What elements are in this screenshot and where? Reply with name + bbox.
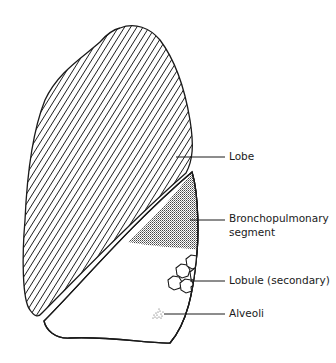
- lung-diagram: [0, 0, 336, 363]
- lobule-label: Lobule (secondary): [229, 274, 330, 287]
- alveoli-label: Alveoli: [229, 307, 264, 320]
- segment-label: Bronchopulmonary: [229, 212, 329, 225]
- segment-label-line2: segment: [229, 226, 275, 239]
- lobe-label: Lobe: [229, 150, 254, 163]
